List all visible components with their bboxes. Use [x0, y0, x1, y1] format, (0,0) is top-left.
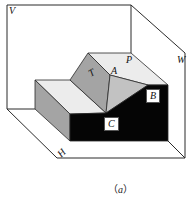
diagram-svg — [0, 0, 195, 198]
projection-diagram: V P W H T A B C （a） — [0, 0, 195, 198]
face-label-b: B — [146, 89, 160, 103]
caption-open-paren: （ — [108, 184, 118, 195]
v-w-edge — [131, 5, 185, 53]
h-w-edge — [168, 141, 185, 158]
caption-close-paren: ） — [123, 184, 133, 195]
plane-label-w: W — [177, 55, 185, 65]
figure-caption: （a） — [108, 181, 133, 196]
point-label-a: A — [111, 66, 117, 76]
plane-label-p: P — [126, 55, 132, 65]
face-label-c: C — [104, 117, 119, 131]
plane-label-v: V — [9, 6, 15, 16]
